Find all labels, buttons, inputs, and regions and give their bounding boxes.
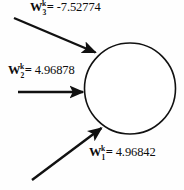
top-diagonal-arrow	[14, 18, 96, 53]
weight-symbol-w1: W	[89, 145, 101, 159]
neuron-weight-diagram: Wk3= -7.52774 Wk2= 4.96878 Wk1= 4.96842	[0, 0, 184, 190]
weight-value-w2: 4.96878	[35, 63, 75, 77]
weight-subscript-w1: 1	[101, 153, 105, 162]
weight-subscript-w3: 3	[42, 8, 46, 17]
weight-superscript-w3: k	[42, 0, 46, 8]
weight-value-w1: 4.96842	[116, 145, 156, 159]
weight-equals-w2: =	[25, 63, 32, 77]
neuron-node-circle	[85, 43, 176, 134]
weight-symbol-w2: W	[8, 63, 20, 77]
weight-label-w2: Wk2= 4.96878	[8, 64, 75, 77]
weight-label-w1: Wk1= 4.96842	[89, 146, 156, 159]
weight-superscript-w1: k	[101, 144, 105, 153]
weight-symbol-w3: W	[30, 0, 42, 14]
diagram-canvas	[0, 0, 184, 190]
weight-equals-w3: =	[47, 0, 54, 14]
weight-value-w3: -7.52774	[57, 0, 101, 14]
weight-label-w3: Wk3= -7.52774	[30, 1, 101, 14]
weight-equals-w1: =	[106, 145, 113, 159]
weight-subscript-w2: 2	[20, 71, 24, 80]
weight-superscript-w2: k	[20, 62, 24, 71]
